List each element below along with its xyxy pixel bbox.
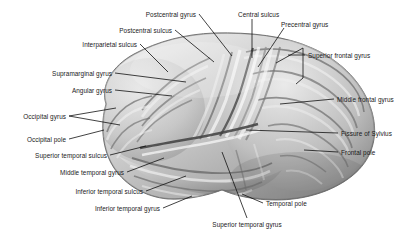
label-superior-frontal-gyrus: Superior frontal gyrus [308, 52, 370, 59]
label-inferior-temporal-gyrus: Inferior temporal gyrus [95, 205, 160, 212]
label-interparietal-sulcus: Interparietal sulcus [82, 41, 137, 48]
label-supramarginal-gyrus: Supramarginal gyrus [52, 70, 112, 77]
label-central-sulcus: Central sulcus [238, 11, 279, 18]
label-precentral-gyrus: Precentral gyrus [281, 21, 328, 28]
label-middle-frontal-gyrus: Middle frontal gyrus [337, 96, 394, 103]
label-postcentral-gyrus: Postcentral gyrus [146, 11, 196, 18]
label-fissure-of-sylvius: Fissure of Sylvius [341, 130, 392, 137]
label-postcentral-sulcus: Postcentral sulcus [119, 27, 172, 34]
label-middle-temporal-gyrus: Middle temporal gyrus [60, 169, 124, 176]
brain-illustration [0, 0, 408, 241]
label-superior-temporal-sulcus: Superior temporal sulcus [35, 152, 107, 159]
label-angular-gyrus: Angular gyrus [72, 87, 112, 94]
label-superior-temporal-gyrus: Superior temporal gyrus [212, 221, 281, 228]
label-frontal-pole: Frontal pole [341, 149, 375, 156]
brain-anatomy-figure: Postcentral gyrusCentral sulcusPrecentra… [0, 0, 408, 241]
label-occipital-gyrus: Occipital gyrus [23, 113, 66, 120]
label-temporal-pole: Temporal pole [266, 200, 307, 207]
leader-occipital-pole [69, 130, 104, 139]
label-occipital-pole: Occipital pole [27, 136, 66, 143]
label-inferior-temporal-sulcus: Inferior temporal sulcus [75, 188, 143, 195]
